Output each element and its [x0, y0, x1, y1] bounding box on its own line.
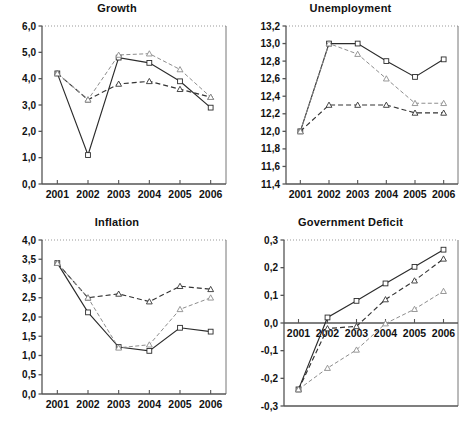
svg-text:1,0: 1,0 — [22, 152, 36, 163]
svg-text:3,0: 3,0 — [22, 100, 36, 111]
svg-text:2003: 2003 — [107, 188, 131, 200]
svg-text:5,0: 5,0 — [22, 47, 36, 58]
svg-text:1,0: 1,0 — [22, 350, 36, 361]
svg-text:11,8: 11,8 — [261, 143, 280, 154]
svg-text:2006: 2006 — [432, 188, 456, 200]
svg-text:2004: 2004 — [375, 188, 399, 200]
panel-growth: Growth 0,01,02,03,04,05,06,0200120022003… — [0, 2, 234, 214]
svg-text:2005: 2005 — [403, 188, 427, 200]
svg-text:2003: 2003 — [346, 188, 370, 200]
svg-text:3,0: 3,0 — [22, 273, 36, 284]
svg-text:-0,2: -0,2 — [261, 373, 279, 384]
plot-inflation: 0,00,51,01,52,02,53,03,54,02001200220032… — [0, 216, 234, 429]
svg-text:2004: 2004 — [138, 188, 162, 200]
svg-text:2004: 2004 — [138, 398, 162, 410]
figure-panel-grid: Growth 0,01,02,03,04,05,06,0200120022003… — [0, 0, 467, 429]
svg-text:2001: 2001 — [287, 327, 311, 339]
svg-text:0,0: 0,0 — [264, 318, 278, 329]
svg-text:2006: 2006 — [199, 188, 223, 200]
svg-text:0,1: 0,1 — [264, 290, 278, 301]
plot-government-deficit: -0,3-0,2-0,10,00,10,20,32001200220032004… — [234, 216, 467, 429]
svg-text:2005: 2005 — [168, 398, 192, 410]
svg-text:1,5: 1,5 — [22, 331, 36, 342]
svg-text:2001: 2001 — [46, 398, 70, 410]
svg-text:13,2: 13,2 — [261, 21, 281, 32]
svg-text:-0,1: -0,1 — [261, 345, 279, 356]
svg-text:11,4: 11,4 — [261, 179, 280, 190]
svg-text:2,0: 2,0 — [22, 126, 36, 137]
svg-text:2003: 2003 — [107, 398, 131, 410]
svg-text:13,0: 13,0 — [261, 38, 281, 49]
svg-text:2002: 2002 — [76, 398, 100, 410]
svg-text:3,5: 3,5 — [22, 254, 36, 265]
svg-text:2002: 2002 — [76, 188, 100, 200]
svg-text:0,0: 0,0 — [22, 179, 36, 190]
plot-unemployment: 11,411,611,812,012,212,412,612,813,013,2… — [234, 2, 467, 214]
panel-government-deficit: Government Deficit -0,3-0,2-0,10,00,10,2… — [234, 216, 467, 429]
svg-text:2,0: 2,0 — [22, 312, 36, 323]
svg-text:2002: 2002 — [317, 188, 341, 200]
svg-text:0,2: 0,2 — [264, 262, 278, 273]
svg-text:12,6: 12,6 — [261, 73, 281, 84]
svg-text:2006: 2006 — [199, 398, 223, 410]
svg-text:4,0: 4,0 — [22, 73, 36, 84]
svg-text:6,0: 6,0 — [22, 21, 36, 32]
svg-text:0,3: 0,3 — [264, 235, 278, 246]
svg-text:2001: 2001 — [289, 188, 313, 200]
svg-text:0,5: 0,5 — [22, 369, 36, 380]
plot-growth: 0,01,02,03,04,05,06,02001200220032004200… — [0, 2, 234, 214]
svg-text:-0,3: -0,3 — [261, 401, 279, 412]
svg-text:4,0: 4,0 — [22, 235, 36, 246]
svg-text:0,0: 0,0 — [22, 389, 36, 400]
svg-text:2,5: 2,5 — [22, 292, 36, 303]
panel-inflation: Inflation 0,00,51,01,52,02,53,03,54,0200… — [0, 216, 234, 429]
svg-text:11,6: 11,6 — [261, 161, 280, 172]
svg-text:2005: 2005 — [168, 188, 192, 200]
panel-unemployment: Unemployment 11,411,611,812,012,212,412,… — [234, 2, 467, 214]
svg-text:12,2: 12,2 — [261, 108, 281, 119]
svg-text:12,0: 12,0 — [261, 126, 281, 137]
svg-text:2006: 2006 — [432, 327, 456, 339]
svg-text:2005: 2005 — [403, 327, 427, 339]
svg-text:2001: 2001 — [46, 188, 70, 200]
svg-text:12,8: 12,8 — [261, 56, 281, 67]
svg-text:12,4: 12,4 — [261, 91, 281, 102]
svg-text:2004: 2004 — [374, 327, 398, 339]
